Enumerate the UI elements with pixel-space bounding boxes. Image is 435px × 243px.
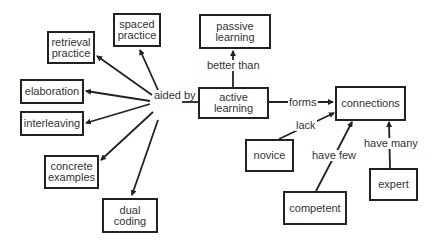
node-label: spaced practice (116, 19, 158, 41)
edge-label-better-than: better than (206, 60, 261, 71)
edge-aided-concrete (101, 112, 153, 160)
node-elaboration: elaboration (20, 79, 84, 104)
node-label: interleaving (24, 118, 80, 129)
node-expert: expert (369, 168, 418, 201)
node-retrieval-practice: retrieval practice (47, 31, 95, 64)
edge-aided-interleaving (86, 104, 150, 123)
edge-aided-retrieval (97, 56, 152, 95)
node-label: passive learning (202, 21, 268, 43)
node-label: elaboration (25, 86, 79, 97)
node-competent: competent (283, 191, 347, 225)
node-active-learning: active learning (198, 87, 269, 119)
node-interleaving: interleaving (20, 111, 84, 136)
node-label: competent (289, 203, 340, 214)
node-label: expert (378, 179, 409, 190)
node-label: retrieval practice (50, 37, 92, 59)
node-spaced-practice: spaced practice (113, 13, 161, 47)
node-concrete-examples: concrete examples (44, 155, 99, 189)
edge-label-forms: forms (288, 97, 318, 108)
node-label: connections (341, 98, 400, 109)
node-dual-coding: dual coding (102, 198, 158, 233)
edge-label-have-few: have few (311, 150, 357, 161)
edge-aided-elaboration (86, 91, 150, 101)
edge-label-aided-by: aided by (153, 90, 185, 101)
edge-label-lack: lack (295, 120, 317, 131)
node-label: active learning (201, 92, 266, 114)
edge-label-have-many: have many (363, 138, 419, 149)
node-passive-learning: passive learning (199, 14, 271, 49)
node-label: dual coding (105, 205, 155, 227)
node-label: novice (254, 150, 286, 161)
node-novice: novice (245, 139, 294, 172)
node-connections: connections (335, 86, 406, 121)
node-label: concrete examples (47, 161, 96, 183)
edge-aided-dual (132, 120, 158, 195)
edge-aided-spaced (140, 50, 158, 90)
